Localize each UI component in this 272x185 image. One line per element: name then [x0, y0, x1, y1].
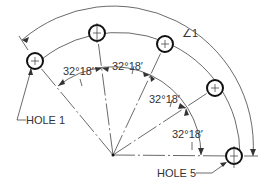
- overall-angle-note: ∠1: [182, 27, 198, 39]
- centerline-hole2: [97, 33, 113, 155]
- hole1-callout: HOLE 1: [26, 114, 65, 126]
- hole-1: [27, 53, 43, 69]
- hole-5: [226, 146, 242, 168]
- hole-4: [207, 80, 223, 96]
- angle-label-3: 32°18′: [149, 93, 180, 105]
- arrowhead-a1: [58, 79, 65, 86]
- angle-label-4: 32°18′: [172, 128, 203, 140]
- center-point: [112, 154, 115, 157]
- leader-hole1: [17, 70, 31, 120]
- arrowhead-a5: [198, 148, 204, 155]
- bolt-circle-drawing: 32°18′ 32°18′ 32°18′ 32°18′ ∠1 HOLE 1 HO…: [0, 0, 272, 185]
- bolt-circle-arc: [30, 32, 240, 156]
- hole-2: [89, 23, 105, 43]
- hole-3: [157, 36, 173, 52]
- angle-label-1: 32°18′: [63, 65, 94, 77]
- arrowhead-overall-right: [250, 149, 256, 156]
- hole5-callout: HOLE 5: [157, 167, 196, 179]
- centerline-hole5: [113, 155, 234, 156]
- leader-angle-1: [80, 79, 82, 86]
- angle-label-2: 32°18′: [112, 60, 143, 72]
- arrowhead-a2r: [102, 67, 109, 72]
